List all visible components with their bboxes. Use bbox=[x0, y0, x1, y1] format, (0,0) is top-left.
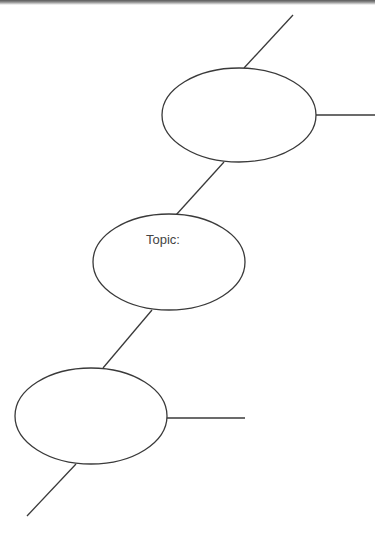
oval-top bbox=[162, 68, 316, 162]
oval-topic bbox=[93, 214, 245, 310]
connector-line-oval-bottom-to-bottom-end bbox=[27, 464, 76, 516]
connector-line-oval-topic-to-oval-bottom bbox=[103, 310, 152, 368]
connector-line-oval-top-to-oval-topic bbox=[176, 162, 224, 215]
topic-label: Topic: bbox=[146, 232, 180, 247]
oval-bottom bbox=[15, 368, 167, 464]
diagram-canvas bbox=[0, 0, 375, 540]
connector-line-top-edge-to-oval-top bbox=[244, 15, 293, 68]
